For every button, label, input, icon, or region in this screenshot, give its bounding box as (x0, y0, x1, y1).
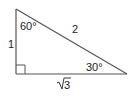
right-angle-marker (16, 65, 25, 74)
hypotenuse (16, 9, 127, 74)
side-label-hypotenuse: 2 (72, 23, 78, 35)
side-label-vertical-leg: 1 (8, 38, 14, 50)
angle-label-top: 60° (20, 20, 37, 32)
triangle-diagram: 60° 2 1 30° 3 (0, 0, 137, 96)
radicand: 3 (64, 79, 70, 91)
side-label-horizontal-leg: 3 (57, 78, 71, 91)
angle-label-right: 30° (86, 61, 103, 73)
